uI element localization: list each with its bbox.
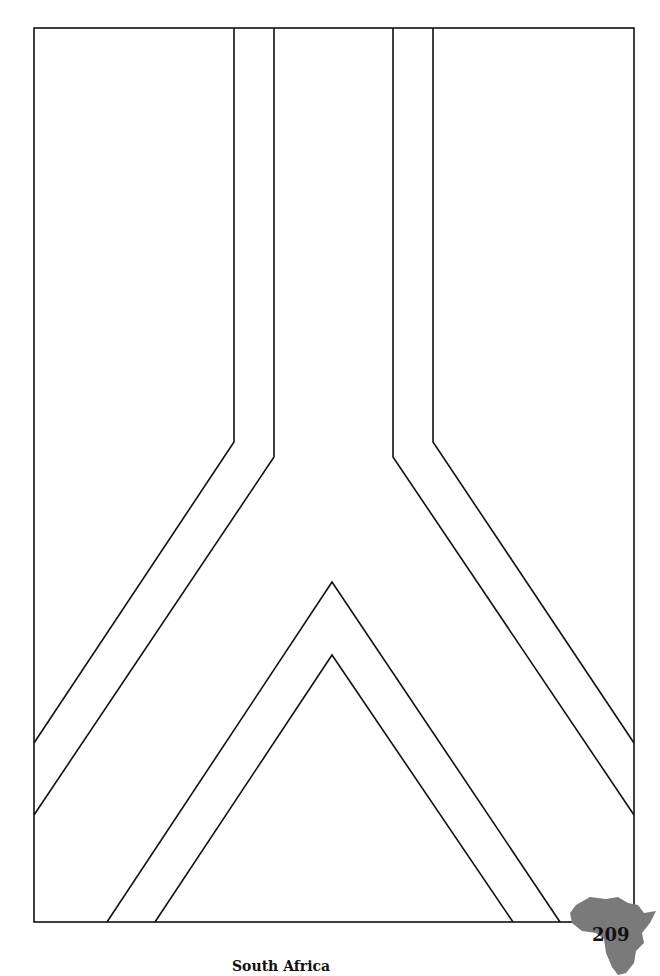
inner-right-stripe (393, 28, 634, 815)
flag-caption: South Africa (232, 958, 330, 974)
outer-left-stripe (34, 28, 234, 743)
flag-border (34, 28, 634, 922)
page-number: 209 (592, 924, 630, 945)
inner-left-stripe (34, 28, 274, 815)
flag-outline (0, 0, 660, 976)
outer-chevron (107, 582, 560, 922)
outer-right-stripe (433, 28, 634, 743)
inner-chevron (155, 655, 513, 922)
